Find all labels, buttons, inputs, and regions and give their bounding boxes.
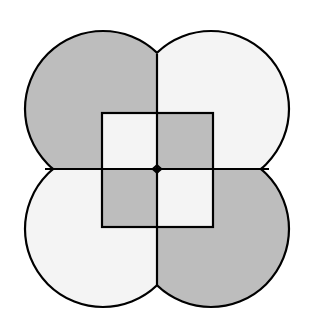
quatrefoil-diagram: [0, 0, 313, 327]
square-cell-bottom-right: [157, 169, 213, 227]
square-cell-top-left: [102, 113, 157, 169]
square-cell-bottom-left: [102, 169, 157, 227]
square-cell-top-right: [157, 113, 213, 169]
